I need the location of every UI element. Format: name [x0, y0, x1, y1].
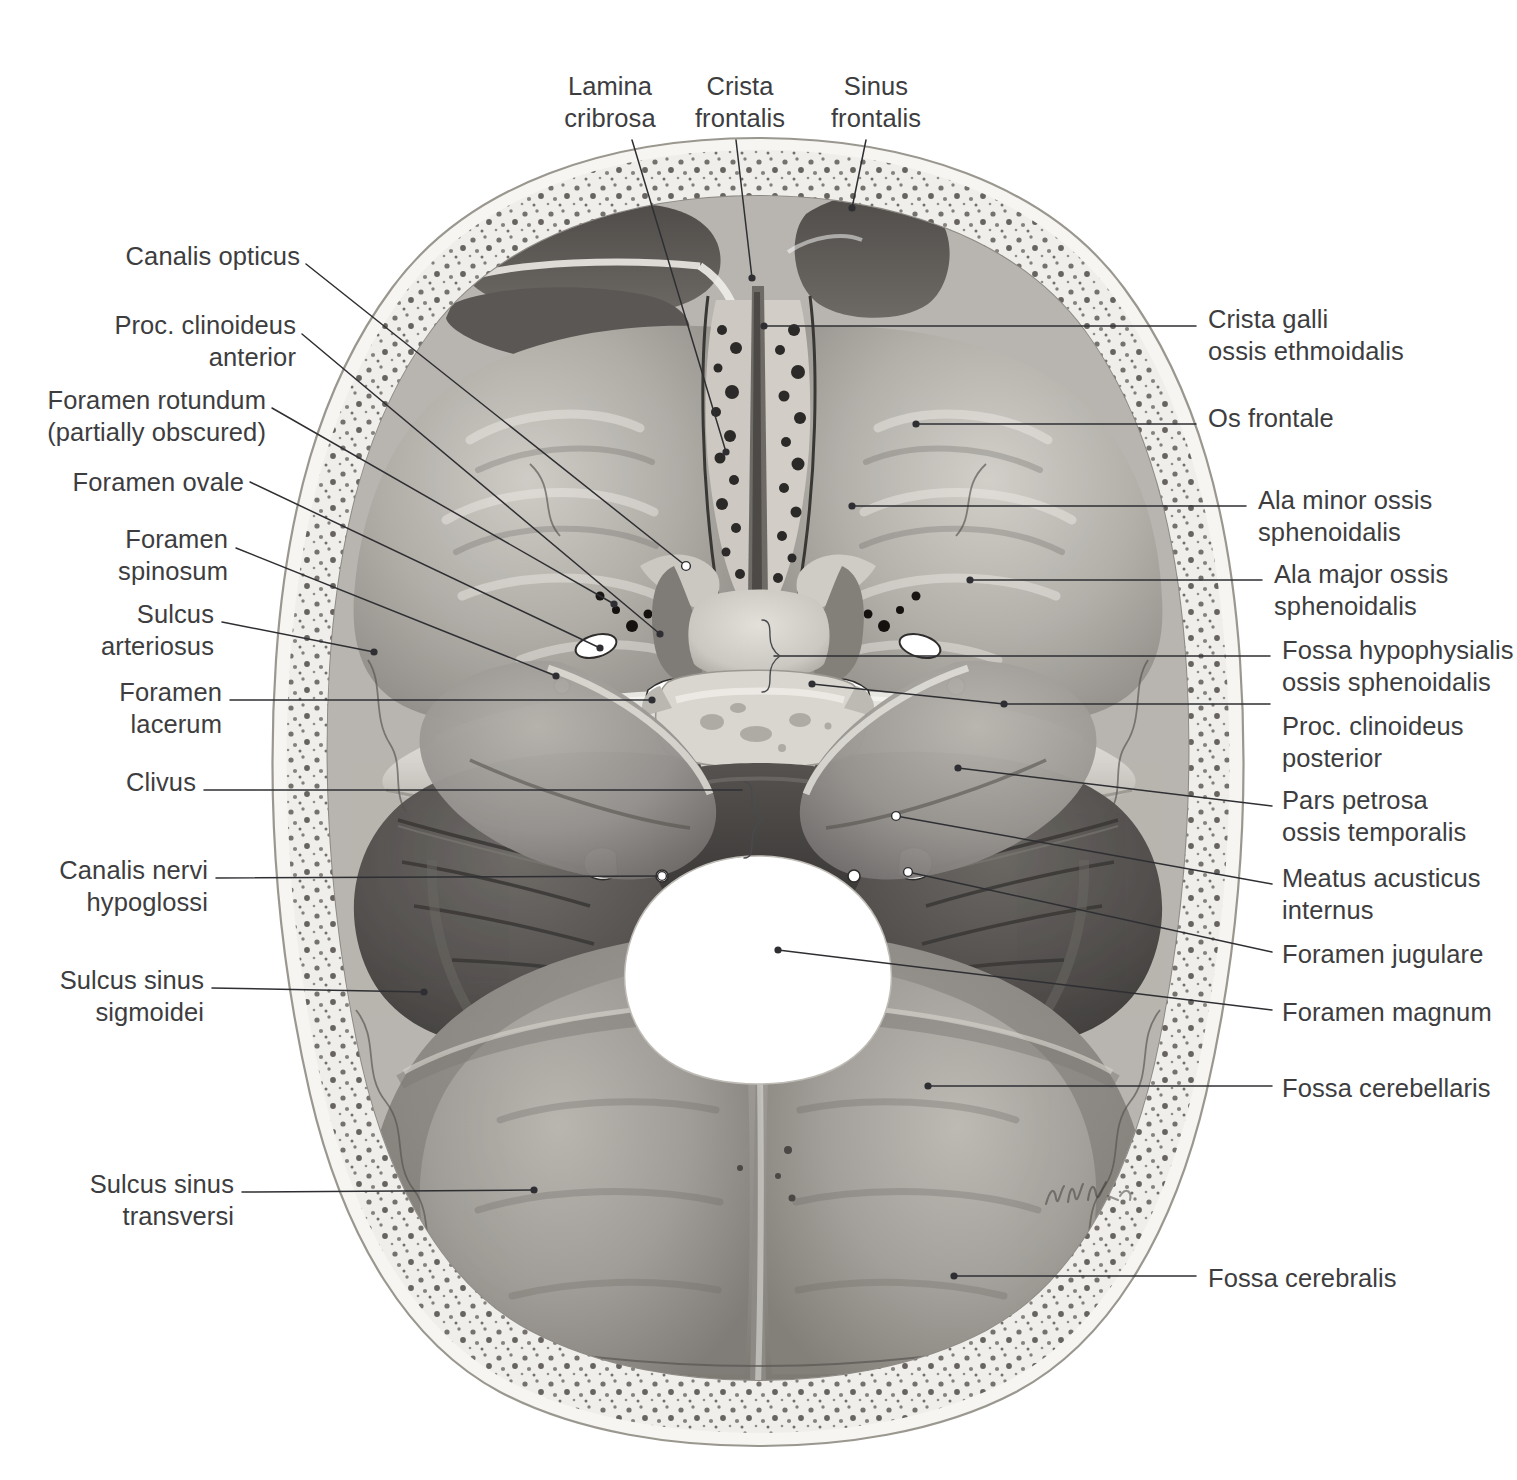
foramen-magnum-opening [625, 856, 891, 1084]
label-foramen-jugulare: Foramen jugulare [1282, 938, 1517, 970]
label-canalis-opticus: Canalis opticus [20, 240, 300, 272]
label-foramen-spinosum: Foramen spinosum [20, 523, 228, 587]
label-os-frontale: Os frontale [1208, 402, 1488, 434]
label-foramen-magnum: Foramen magnum [1282, 996, 1517, 1028]
label-sinus-frontalis: Sinus frontalis [802, 70, 950, 134]
label-fossa-cerebralis: Fossa cerebralis [1208, 1262, 1458, 1294]
label-lamina-cribrosa: Lamina cribrosa [530, 70, 690, 134]
label-ala-major: Ala major ossis sphenoidalis [1274, 558, 1517, 622]
label-sulcus-arteriosus: Sulcus arteriosus [20, 598, 214, 662]
label-ala-minor: Ala minor ossis sphenoidalis [1258, 484, 1517, 548]
label-proc-clinoideus-posterior: Proc. clinoideus posterior [1282, 710, 1517, 774]
label-fossa-cerebellaris: Fossa cerebellaris [1282, 1072, 1517, 1104]
label-proc-clinoideus-anterior: Proc. clinoideus anterior [20, 309, 296, 373]
label-canalis-nervi-hypoglossi: Canalis nervi hypoglossi [20, 854, 208, 918]
label-crista-galli: Crista galli ossis ethmoidalis [1208, 303, 1508, 367]
label-fossa-hypophysialis: Fossa hypophysialis ossis sphenoidalis [1282, 634, 1517, 698]
label-crista-frontalis: Crista frontalis [668, 70, 812, 134]
label-sulcus-sinus-transversi: Sulcus sinus transversi [20, 1168, 234, 1232]
label-foramen-lacerum: Foramen lacerum [20, 676, 222, 740]
label-foramen-ovale: Foramen ovale [20, 466, 244, 498]
label-sulcus-sinus-sigmoidei: Sulcus sinus sigmoidei [20, 964, 204, 1028]
label-pars-petrosa: Pars petrosa ossis temporalis [1282, 784, 1517, 848]
label-clivus: Clivus [20, 766, 196, 798]
figure-canvas: Lamina cribrosa Crista frontalis Sinus f… [0, 0, 1517, 1480]
label-meatus-acusticus-internus: Meatus acusticus internus [1282, 862, 1517, 926]
label-foramen-rotundum: Foramen rotundum (partially obscured) [10, 384, 266, 448]
